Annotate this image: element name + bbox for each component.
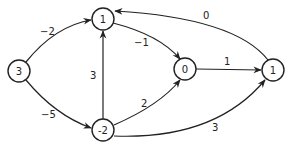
- edge-b-to-c-weight: −1: [134, 37, 149, 48]
- edge-d-to-b: 0: [115, 10, 268, 60]
- edge-e-to-c: 2: [114, 80, 180, 125]
- edge-a-to-e-weight: −5: [41, 109, 56, 120]
- node-c-label: 0: [182, 64, 188, 75]
- edge-e-to-d-line: [114, 80, 265, 136]
- edge-e-to-d-weight: 3: [212, 122, 218, 133]
- edge-a-to-b-weight: −2: [40, 26, 55, 37]
- graph-diagram: −2 −5 3 −1 2 1 0 3 3 1 0: [0, 0, 293, 148]
- edge-c-to-d-weight: 1: [224, 56, 230, 67]
- edge-a-to-e-line: [26, 80, 91, 128]
- edge-e-to-d: 3: [114, 80, 265, 136]
- edge-e-to-b: 3: [90, 31, 103, 119]
- node-d: 1: [262, 59, 284, 81]
- node-b: 1: [92, 8, 114, 30]
- edge-b-to-c: −1: [113, 23, 180, 59]
- edge-d-to-b-line: [115, 11, 268, 60]
- edge-e-to-b-weight: 3: [90, 70, 96, 81]
- edge-a-to-e: −5: [26, 80, 91, 128]
- node-a: 3: [8, 60, 30, 82]
- edge-a-to-b-line: [26, 20, 91, 62]
- node-b-label: 1: [100, 14, 106, 25]
- edge-e-to-c-weight: 2: [141, 98, 147, 109]
- edge-c-to-d: 1: [196, 56, 261, 70]
- edge-a-to-b: −2: [26, 20, 91, 62]
- edge-d-to-b-weight: 0: [203, 10, 209, 21]
- edge-c-to-d-line: [196, 69, 261, 70]
- node-a-label: 3: [16, 66, 22, 77]
- node-e-label: -2: [98, 125, 108, 136]
- node-d-label: 1: [270, 65, 276, 76]
- node-e: -2: [92, 119, 114, 141]
- node-c: 0: [174, 58, 196, 80]
